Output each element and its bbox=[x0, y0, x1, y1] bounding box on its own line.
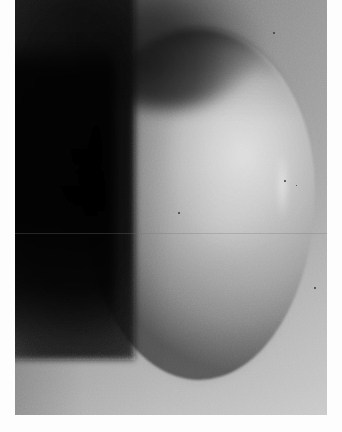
photographic-plate bbox=[15, 0, 327, 415]
image-canvas bbox=[0, 0, 342, 432]
scanline-artifact bbox=[15, 233, 327, 234]
speck-lower-right bbox=[296, 185, 297, 186]
speck-right-edge bbox=[314, 287, 316, 289]
film-grain-texture bbox=[15, 0, 135, 360]
speck-center bbox=[178, 212, 180, 214]
speck-top-right bbox=[273, 32, 275, 34]
speck-mid-right bbox=[284, 180, 286, 182]
paper-margin-left bbox=[0, 0, 15, 432]
paper-margin-bottom bbox=[0, 415, 342, 432]
paper-margin-right bbox=[327, 0, 342, 432]
